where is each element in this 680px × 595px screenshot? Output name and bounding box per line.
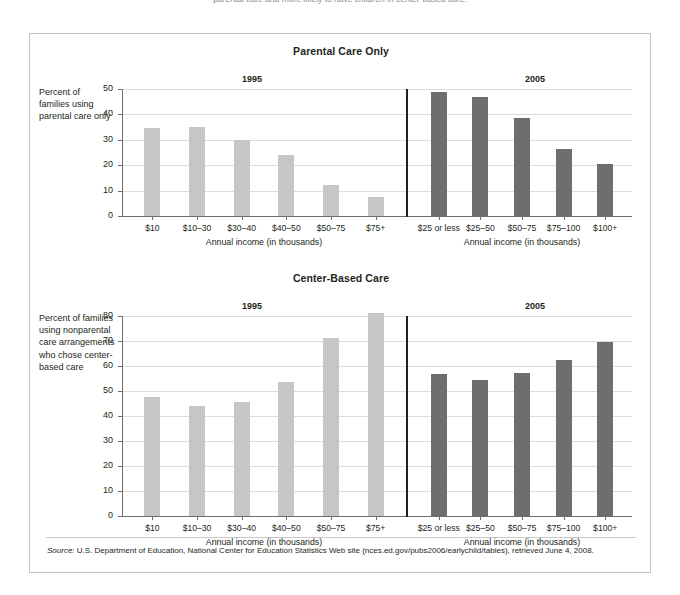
x-axis-tick	[286, 517, 287, 520]
source-note: Source: U.S. Department of Education, Na…	[47, 546, 594, 555]
y-axis-tick-label: 0	[91, 210, 113, 220]
panel-divider	[406, 316, 408, 517]
x-axis-tick	[286, 217, 287, 220]
source-text: U.S. Department of Education, National C…	[75, 546, 594, 555]
y-axis-tick-label: 30	[91, 134, 113, 144]
y-axis-line	[122, 316, 123, 517]
bar-1995-$40–50	[278, 155, 294, 216]
y-axis-tick-label: 80	[91, 310, 113, 320]
year-label-1995-chart2: 1995	[242, 301, 262, 311]
y-axis-tick-label: 60	[91, 360, 113, 370]
bar-2005-$50–75	[514, 118, 530, 216]
bar-2005-$75–100	[556, 149, 572, 216]
source-divider	[46, 537, 636, 538]
x-axis-tick	[564, 217, 565, 220]
bar-2005-$25 or less	[431, 92, 447, 216]
bar-2005-$100+	[597, 164, 613, 216]
x-axis-tick-label: $100+	[567, 523, 643, 533]
year-label-1995-chart1: 1995	[242, 74, 262, 84]
x-axis-tick	[242, 517, 243, 520]
x-axis-tick	[522, 517, 523, 520]
x-axis-tick	[331, 217, 332, 220]
year-label-2005-chart1: 2005	[525, 74, 545, 84]
bar-1995-$10	[144, 397, 160, 517]
x-axis-tick	[439, 517, 440, 520]
x-axis-title: Annual income (in thousands)	[412, 237, 632, 247]
y-axis-tick-label: 50	[91, 385, 113, 395]
bar-2005-$100+	[597, 342, 613, 516]
bar-2005-$50–75	[514, 373, 530, 517]
x-axis-tick-label: $100+	[567, 223, 643, 233]
bar-2005-$25 or less	[431, 374, 447, 516]
x-axis-tick	[152, 517, 153, 520]
panel-divider	[406, 89, 408, 217]
y-axis-tick-label: 10	[91, 485, 113, 495]
y-axis-tick-label: 30	[91, 435, 113, 445]
bar-1995-$50–75	[323, 338, 339, 516]
plot-area-chart1: 01020304050$10$10–30$30–40$40–50$50–75$7…	[122, 89, 632, 216]
x-axis-tick	[242, 217, 243, 220]
x-axis-tick	[564, 517, 565, 520]
y-axis-tick-label: 40	[91, 108, 113, 118]
bar-2005-$25–50	[472, 380, 488, 516]
year-label-2005-chart2: 2005	[525, 301, 545, 311]
bar-1995-$10–30	[189, 127, 205, 216]
bar-1995-$10	[144, 128, 160, 216]
chart-title-parental-care: Parental Care Only	[30, 45, 652, 57]
bar-1995-$40–50	[278, 382, 294, 516]
x-axis-tick	[605, 217, 606, 220]
x-axis-tick	[331, 517, 332, 520]
y-axis-tick-label: 20	[91, 159, 113, 169]
plot-area-chart2: 01020304050607080$10$10–30$30–40$40–50$5…	[122, 316, 632, 516]
x-axis-line	[122, 216, 632, 217]
bar-1995-$75+	[368, 313, 384, 516]
y-axis-tick-label: 20	[91, 460, 113, 470]
bar-1995-$75+	[368, 197, 384, 216]
x-axis-tick	[605, 517, 606, 520]
x-axis-tick	[522, 217, 523, 220]
bar-2005-$25–50	[472, 97, 488, 216]
y-axis-tick-label: 10	[91, 185, 113, 195]
source-label: Source:	[47, 546, 75, 555]
x-axis-tick	[376, 217, 377, 220]
gridline	[122, 114, 632, 115]
bar-1995-$10–30	[189, 406, 205, 516]
y-axis-tick-label: 0	[91, 510, 113, 520]
gridline	[122, 89, 632, 90]
x-axis-tick	[197, 217, 198, 220]
x-axis-tick	[439, 217, 440, 220]
y-axis-tick-label: 40	[91, 410, 113, 420]
x-axis-line	[122, 516, 632, 517]
bar-2005-$75–100	[556, 360, 572, 517]
top-caption: parental care and more likely to have ch…	[0, 0, 680, 4]
chart-title-center-based-care: Center-Based Care	[30, 272, 652, 284]
y-axis-line	[122, 89, 123, 217]
bar-1995-$50–75	[323, 185, 339, 216]
y-axis-tick-label: 50	[91, 83, 113, 93]
bar-1995-$30–40	[234, 402, 250, 517]
x-axis-tick	[152, 217, 153, 220]
x-axis-tick	[480, 217, 481, 220]
x-axis-tick	[376, 517, 377, 520]
y-axis-tick-label: 70	[91, 335, 113, 345]
bar-1995-$30–40	[234, 140, 250, 216]
x-axis-title: Annual income (in thousands)	[154, 237, 374, 247]
figure-container: Parental Care Only 1995 2005 Percent of …	[29, 33, 651, 573]
x-axis-tick	[480, 517, 481, 520]
x-axis-tick	[197, 517, 198, 520]
